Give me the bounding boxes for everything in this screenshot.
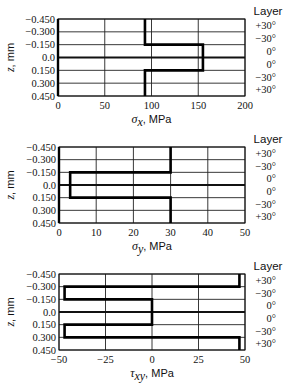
y-tick-label: −0.150: [25, 39, 55, 50]
y-tick-label: 0.300: [32, 205, 56, 216]
y-tick-label: 0.150: [31, 65, 55, 76]
layer-label: +30°: [255, 338, 276, 349]
x-tick-label: 30: [165, 227, 176, 238]
layer-label: 0°: [267, 46, 276, 57]
x-tick-label: 40: [203, 227, 214, 238]
x-tick-label: −50: [51, 354, 67, 365]
layer-label: 0°: [267, 186, 276, 197]
layer-label: +30°: [255, 148, 276, 159]
layer-label: 0°: [267, 173, 276, 184]
y-tick-label: −0.450: [26, 142, 56, 153]
x-tick-label: 10: [91, 227, 102, 238]
layer-label: +30°: [255, 20, 276, 31]
layer-label: 0°: [267, 59, 276, 70]
y-tick-label: 0.450: [31, 91, 55, 102]
y-tick-label: 0.150: [32, 192, 56, 203]
y-tick-label: −0.150: [26, 167, 56, 178]
x-tick-label: 0: [149, 354, 154, 365]
layer-label: −30°: [255, 161, 276, 172]
x-tick-label: 50: [100, 100, 111, 111]
layer-label: −30°: [255, 72, 276, 83]
y-tick-label: −0.300: [26, 281, 56, 292]
stress-plot-2: −0.450−0.300−0.1500.00.1500.3000.4500102…: [3, 133, 283, 256]
layer-header: Layer: [254, 260, 283, 272]
layer-label: +30°: [255, 84, 276, 95]
y-tick-label: −0.300: [25, 26, 55, 37]
layer-label: +30°: [255, 275, 276, 286]
y-tick-label: −0.150: [26, 294, 56, 305]
layer-label: −30°: [255, 288, 276, 299]
layer-label: −30°: [255, 326, 276, 337]
x-tick-label: 20: [128, 227, 139, 238]
layer-label: −30°: [255, 199, 276, 210]
y-tick-label: 0.0: [42, 52, 55, 63]
x-tick-label: 50: [240, 227, 251, 238]
stress-plot-1: −0.450−0.300−0.1500.00.1500.3000.4500501…: [3, 5, 283, 129]
x-tick-label: 0: [55, 100, 60, 111]
y-axis-label: z, mm: [3, 297, 17, 327]
y-tick-label: 0.300: [32, 332, 56, 343]
layer-label: 0°: [267, 300, 276, 311]
x-tick-label: 150: [190, 100, 206, 111]
y-axis-label: z, mm: [3, 170, 17, 200]
y-tick-label: 0.150: [32, 319, 56, 330]
y-tick-label: −0.300: [26, 154, 56, 165]
x-axis-label: τxy, MPa: [130, 366, 175, 383]
y-tick-label: 0.300: [31, 78, 55, 89]
x-tick-label: 50: [240, 354, 251, 365]
layer-header: Layer: [254, 133, 283, 145]
x-tick-label: 25: [193, 354, 204, 365]
stress-distribution-figure: −0.450−0.300−0.1500.00.1500.3000.4500501…: [0, 0, 290, 388]
layer-label: 0°: [267, 313, 276, 324]
x-tick-label: −25: [97, 354, 113, 365]
layer-header: Layer: [254, 5, 283, 17]
x-tick-label: 100: [144, 100, 160, 111]
y-axis-label: z, mm: [3, 43, 17, 73]
y-tick-label: −0.450: [26, 269, 56, 280]
layer-label: −30°: [255, 33, 276, 44]
y-tick-label: −0.450: [25, 14, 55, 25]
stress-plot-3: −0.450−0.300−0.1500.00.1500.3000.450−50−…: [3, 260, 283, 383]
y-tick-label: 0.450: [32, 218, 56, 229]
x-axis-label: σx, MPa: [132, 112, 173, 129]
x-tick-label: 200: [237, 100, 253, 111]
y-tick-label: 0.0: [43, 180, 56, 191]
x-axis-label: σy, MPa: [132, 239, 173, 256]
y-tick-label: 0.0: [43, 307, 56, 318]
layer-label: +30°: [255, 211, 276, 222]
x-tick-label: 0: [56, 227, 61, 238]
